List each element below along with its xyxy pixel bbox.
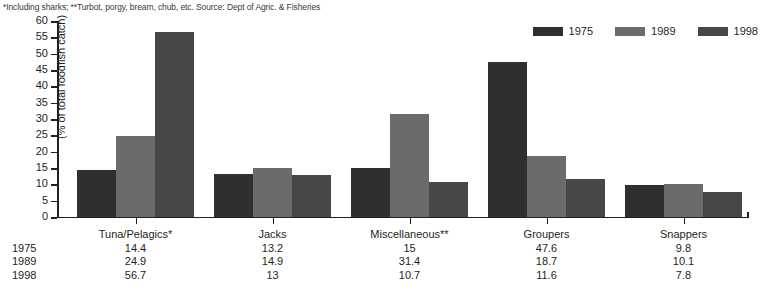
table-row: 197514.413.21547.69.8 [0,242,766,256]
y-axis-tick-label: 5 [42,194,48,206]
y-axis-tick-label: 60 [36,14,48,26]
x-axis-end-tick [747,212,749,218]
bar-1989-snappers[interactable] [664,184,703,217]
y-axis-tick-label: 10 [36,177,48,189]
y-axis-title: (% of total foodfish catch) [55,15,67,139]
y-axis-tick: 15 [51,168,57,170]
y-axis-tick-label: 50 [36,47,48,59]
table-cell: 7.8 [676,269,691,281]
bar-1975-snappers[interactable] [625,185,664,217]
table-column-header: Groupers [524,228,570,240]
y-axis-tick: 10 [51,184,57,186]
chart-plot-area: 605550454035302520151050 (% of total foo… [57,21,749,217]
x-axis-tick [684,218,686,224]
bar-set [625,21,742,217]
y-axis-tick: 20 [51,152,57,154]
y-axis-tick-label: 35 [36,96,48,108]
bar-group [77,21,194,217]
y-axis-tick: 5 [51,201,57,203]
y-axis-tick-label: 30 [36,112,48,124]
y-axis-tick-label: 55 [36,30,48,42]
bar-1998-tunapelagics[interactable] [155,32,194,217]
x-axis-tick [547,218,549,224]
table-column-header: Snappers [660,228,707,240]
bar-1998-miscellaneous[interactable] [429,182,468,217]
table-header-row: Tuna/Pelagics*JacksMiscellaneous**Groupe… [0,228,766,242]
x-axis-tick [410,218,412,224]
table-cell: 15 [403,242,415,254]
bar-group [625,21,742,217]
table-cell: 47.6 [536,242,557,254]
y-axis-tick: 0 [51,217,57,219]
table-cell: 10.7 [399,269,420,281]
table-row-header: 1998 [12,269,36,281]
table-row: 199856.71310.711.67.8 [0,269,766,283]
table-cell: 10.1 [673,255,694,267]
table-column-header: Tuna/Pelagics* [99,228,173,240]
bar-1989-tunapelagics[interactable] [116,136,155,217]
bar-1975-miscellaneous[interactable] [351,168,390,217]
table-cell: 13 [266,269,278,281]
y-axis-tick-label: 0 [42,210,48,222]
table-cell: 56.7 [125,269,146,281]
bar-set [351,21,468,217]
table-cell: 24.9 [125,255,146,267]
table-column-header: Miscellaneous** [370,228,448,240]
table-cell: 13.2 [262,242,283,254]
chart-footnote: *Including sharks; **Turbot, porgy, brea… [3,2,320,12]
table-row-header: 1975 [12,242,36,254]
y-axis-tick-label: 15 [36,161,48,173]
bar-1998-snappers[interactable] [703,192,742,217]
bar-group [214,21,331,217]
bar-1989-groupers[interactable] [527,156,566,217]
y-axis-tick-label: 25 [36,128,48,140]
bar-1975-jacks[interactable] [214,174,253,217]
bar-set [488,21,605,217]
table-cell: 14.9 [262,255,283,267]
bar-set [77,21,194,217]
bar-group [351,21,468,217]
x-axis-tick [136,218,138,224]
bar-1998-jacks[interactable] [292,175,331,217]
bar-1975-groupers[interactable] [488,62,527,217]
data-table: Tuna/Pelagics*JacksMiscellaneous**Groupe… [0,228,766,282]
bar-1989-miscellaneous[interactable] [390,114,429,217]
bar-1989-jacks[interactable] [253,168,292,217]
bar-group [488,21,605,217]
x-axis-tick [273,218,275,224]
y-axis-tick-label: 40 [36,79,48,91]
table-cell: 9.8 [676,242,691,254]
table-cell: 31.4 [399,255,420,267]
y-axis-tick-label: 45 [36,63,48,75]
bar-1998-groupers[interactable] [566,179,605,217]
table-column-header: Jacks [258,228,286,240]
y-axis-tick-label: 20 [36,145,48,157]
table-row: 198924.914.931.418.710.1 [0,255,766,269]
bar-set [214,21,331,217]
table-row-header: 1989 [12,255,36,267]
table-cell: 18.7 [536,255,557,267]
table-cell: 11.6 [536,269,557,281]
table-cell: 14.4 [125,242,146,254]
bar-1975-tunapelagics[interactable] [77,170,116,217]
